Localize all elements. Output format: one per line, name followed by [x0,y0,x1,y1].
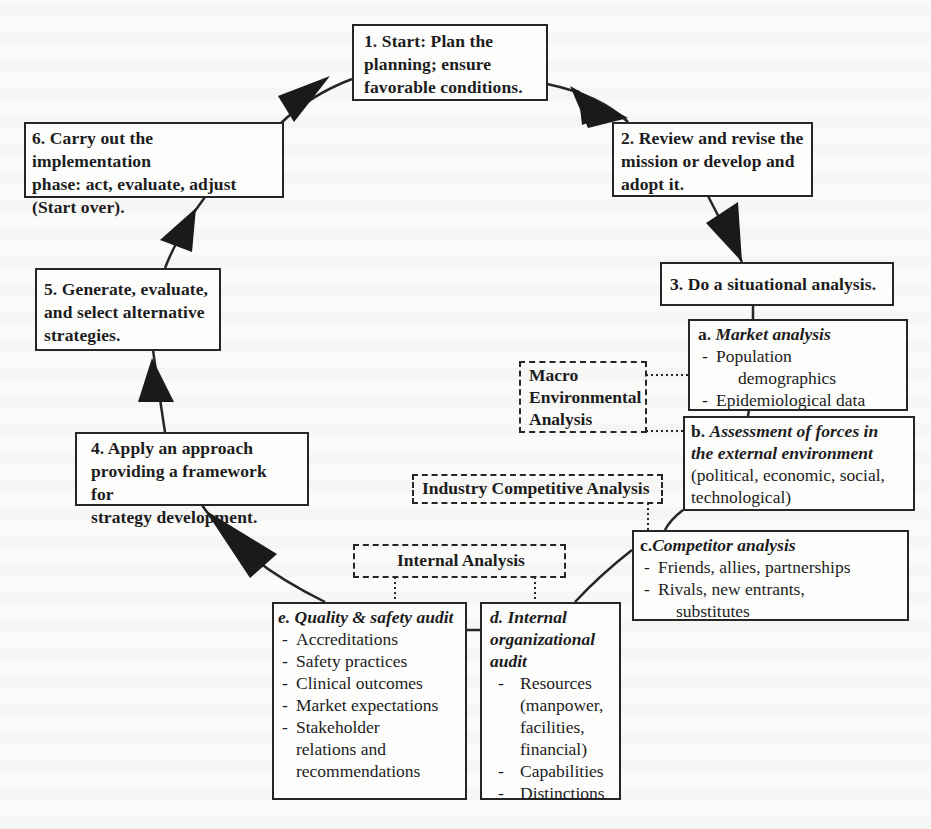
quality-safety-audit-item: Clinical outcomes [278,672,461,694]
industry-label: Industry Competitive Analysis [422,477,653,500]
step-2-box[interactable]: 2. Review and revise the mission or deve… [612,122,813,197]
macro-environmental-group[interactable]: Macro Environmental Analysis [519,361,647,433]
step-1-line-3: favorable conditions. [364,76,536,99]
step-6-box[interactable]: 6. Carry out the implementation phase: a… [24,122,284,198]
market-analysis-item: Population [698,345,898,367]
step-5-line-1: 5. Generate, evaluate, [44,278,212,301]
connector-c-to-d [575,550,632,602]
quality-safety-audit-item-cont: recommendations [278,760,461,782]
step-5-box[interactable]: 5. Generate, evaluate, and select altern… [35,268,221,351]
internal-audit-title-3: audit [490,650,611,672]
external-forces-letter: b. [691,421,705,441]
competitor-analysis-item: Rivals, new entrants, [640,578,901,600]
external-forces-heading-1: b. Assessment of forces in [691,420,907,442]
quality-safety-audit-title: e. Quality & safety audit [278,606,461,628]
external-forces-desc-2: technological) [691,486,907,508]
internal-audit-item: Capabilities [490,760,611,782]
market-analysis-box[interactable]: a. Market analysis Population demographi… [688,319,908,411]
internal-audit-item-cont: (manpower, [490,694,611,716]
market-analysis-heading: a. Market analysis [698,323,898,345]
quality-safety-audit-list: Accreditations Safety practices Clinical… [278,628,461,782]
macro-label-1: Macro [529,364,637,386]
competitor-analysis-letter: c. [640,535,652,555]
internal-audit-item: Resources [490,672,611,694]
competitor-analysis-list: Friends, allies, partnerships Rivals, ne… [640,556,901,622]
competitor-analysis-item-cont: substitutes [640,600,901,622]
macro-label-3: Analysis [529,408,637,430]
quality-safety-audit-box[interactable]: e. Quality & safety audit Accreditations… [272,602,467,800]
step-6-line-3: (Start over). [32,196,276,219]
external-forces-desc-1: (political, economic, social, [691,464,907,486]
step-2-line-1: 2. Review and revise the [621,127,804,150]
external-forces-box[interactable]: b. Assessment of forces in the external … [683,416,915,511]
step-4-line-3: strategy development. [91,506,293,529]
step-3-box[interactable]: 3. Do a situational analysis. [660,262,894,306]
internal-label: Internal Analysis [397,549,564,572]
step-5-line-2: and select alternative [44,301,212,324]
internal-audit-title-1: d. Internal [490,606,611,628]
step-2-line-3: adopt it. [621,173,804,196]
quality-safety-audit-item-cont: relations and [278,738,461,760]
macro-label-2: Environmental [529,386,637,408]
market-analysis-item-cont: demographics [698,367,898,389]
step-1-box[interactable]: 1. Start: Plan the planning; ensure favo… [352,24,548,101]
external-forces-title-1: Assessment of forces in [709,421,878,441]
quality-safety-audit-item: Safety practices [278,650,461,672]
market-analysis-letter: a. [698,324,711,344]
quality-safety-audit-item: Stakeholder [278,716,461,738]
step-2-line-2: mission or develop and [621,150,804,173]
internal-audit-box[interactable]: d. Internal organizational audit Resourc… [480,602,621,800]
step-3-line-1: 3. Do a situational analysis. [670,273,884,296]
internal-audit-item-cont: facilities, [490,716,611,738]
step-1-line-1: 1. Start: Plan the [364,30,536,53]
connector-b-to-c [665,510,683,530]
market-analysis-title: Market analysis [716,324,831,344]
step-4-box[interactable]: 4. Apply an approach providing a framewo… [75,432,309,506]
arrowhead-2-to-3 [706,202,742,262]
external-forces-title-2: the external environment [691,442,907,464]
step-4-line-1: 4. Apply an approach [91,437,293,460]
competitor-analysis-title: Competitor analysis [652,535,795,555]
internal-analysis-group[interactable]: Internal Analysis [353,544,566,578]
industry-competitive-group[interactable]: Industry Competitive Analysis [412,474,663,504]
quality-safety-audit-item: Market expectations [278,694,461,716]
step-4-line-2: providing a framework for [91,460,293,506]
arrowhead-6-to-1 [278,76,330,122]
step-1-line-2: planning; ensure [364,53,536,76]
market-analysis-item: Epidemiological data [698,389,898,411]
step-6-line-1: 6. Carry out the implementation [32,127,276,173]
quality-safety-audit-item: Accreditations [278,628,461,650]
competitor-analysis-box[interactable]: c.Competitor analysis Friends, allies, p… [632,530,909,621]
step-5-line-3: strategies. [44,324,212,347]
internal-audit-title-2: organizational [490,628,611,650]
step-6-line-2: phase: act, evaluate, adjust [32,173,276,196]
internal-audit-list: Resources (manpower, facilities, financi… [490,672,611,804]
competitor-analysis-heading: c.Competitor analysis [640,534,901,556]
internal-audit-item-cont: financial) [490,738,611,760]
internal-audit-item: Distinctions [490,782,611,804]
market-analysis-list: Population demographics Epidemiological … [698,345,898,411]
competitor-analysis-item: Friends, allies, partnerships [640,556,901,578]
